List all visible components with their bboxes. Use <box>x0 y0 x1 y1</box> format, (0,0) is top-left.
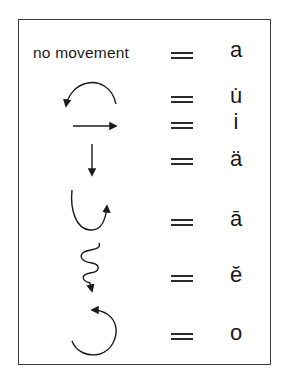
squiggle-down-arrow-icon <box>81 243 99 291</box>
circle-counterclockwise-arrow-icon <box>72 310 116 355</box>
hook-up-right-arrow-icon <box>72 190 107 230</box>
arc-counterclockwise-left-arrow-icon <box>66 83 116 106</box>
